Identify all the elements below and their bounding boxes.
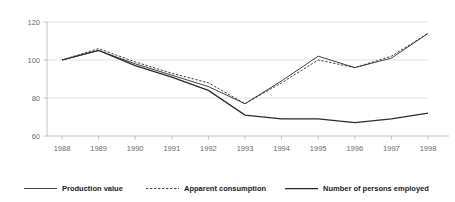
legend-label: Apparent consumption — [184, 184, 267, 193]
x-axis-tick-labels: 1988 1989 1990 1991 1992 1993 1994 1995 … — [54, 144, 437, 153]
y-axis-tick-labels: 120 100 80 60 — [27, 18, 40, 141]
y-tick-marks — [44, 22, 48, 136]
y-tick-label: 60 — [32, 132, 40, 141]
y-tick-label: 120 — [27, 18, 40, 27]
x-tick-marks — [62, 136, 428, 140]
legend-item-production-value[interactable]: Production value — [24, 184, 123, 193]
x-tick-label: 1993 — [237, 144, 254, 153]
line-chart: 120 100 80 60 1988 1989 1990 1991 1992 1… — [0, 0, 455, 202]
x-tick-label: 1989 — [90, 144, 107, 153]
y-tick-label: 100 — [27, 56, 40, 65]
legend-item-number-of-persons-employed[interactable]: Number of persons employed — [285, 184, 429, 193]
y-tick-label: 80 — [32, 94, 40, 103]
x-tick-label: 1995 — [310, 144, 327, 153]
chart-canvas: 120 100 80 60 1988 1989 1990 1991 1992 1… — [0, 0, 455, 202]
x-tick-label: 1991 — [163, 144, 180, 153]
legend-label: Production value — [62, 184, 123, 193]
x-tick-label: 1998 — [420, 144, 437, 153]
x-tick-label: 1996 — [346, 144, 363, 153]
x-tick-label: 1997 — [383, 144, 400, 153]
x-tick-label: 1990 — [127, 144, 144, 153]
x-tick-label: 1994 — [273, 144, 290, 153]
plot-area-background — [47, 22, 428, 136]
chart-legend: Production value Apparent consumption Nu… — [24, 184, 429, 193]
x-tick-label: 1992 — [200, 144, 217, 153]
legend-label: Number of persons employed — [323, 184, 429, 193]
legend-item-apparent-consumption[interactable]: Apparent consumption — [146, 184, 267, 193]
x-tick-label: 1988 — [54, 144, 71, 153]
